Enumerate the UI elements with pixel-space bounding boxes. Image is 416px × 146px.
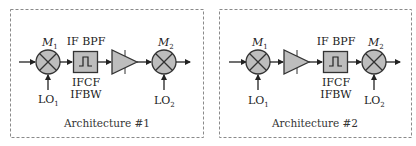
mixer-m1-icon: [246, 50, 270, 74]
architecture-1: M1 LO1 IF BPF IFCF IFBW M2 LO: [11, 10, 204, 138]
architecture-2: M1 LO1 IF BPF IFCF IFBW M2 LO: [220, 10, 412, 138]
filter-label: IF BPF: [317, 35, 356, 48]
mixer-m2-icon: [362, 50, 386, 74]
lo1-label: LO1: [38, 93, 59, 108]
filter-bandwidth-label: IFBW: [320, 88, 352, 101]
amplifier-icon: [112, 50, 137, 74]
filter-label: IF BPF: [67, 35, 106, 48]
lo1-label: LO1: [248, 94, 269, 109]
mixer-m1-label: M1: [41, 36, 58, 51]
architecture-1-caption: Architecture #1: [63, 117, 150, 129]
bandpass-filter-icon: [324, 52, 348, 73]
architecture-diagram: M1 LO1 IF BPF IFCF IFBW M2 LO: [0, 0, 416, 146]
mixer-m2-icon: [152, 50, 176, 74]
mixer-m1-icon: [36, 50, 60, 74]
architecture-2-caption: Architecture #2: [271, 117, 358, 129]
bandpass-filter-icon: [74, 52, 98, 73]
lo2-label: LO2: [364, 94, 385, 109]
lo2-label: LO2: [154, 94, 175, 109]
mixer-m2-label: M2: [157, 36, 174, 51]
filter-bandwidth-label: IFBW: [70, 88, 102, 101]
mixer-m1-label: M1: [251, 36, 268, 51]
mixer-m2-label: M2: [367, 36, 384, 51]
amplifier-icon: [284, 50, 309, 74]
